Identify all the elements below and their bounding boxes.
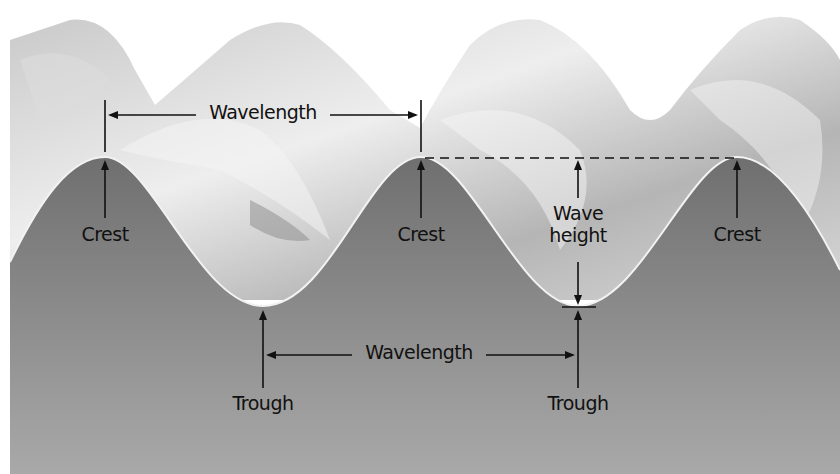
wave-height-label-line1: Wave — [549, 202, 607, 224]
crest-label-3: Crest — [713, 223, 760, 245]
wave-diagram: Wavelength Crest Crest Crest Wave height… — [0, 0, 840, 474]
crest-label-1: Crest — [81, 223, 128, 245]
trough-label-1: Trough — [233, 392, 294, 414]
wave-height-label: Wave height — [549, 202, 607, 246]
wavelength-label-bottom: Wavelength — [361, 341, 477, 363]
wave-height-label-line2: height — [549, 224, 607, 246]
trough-label-2: Trough — [548, 392, 609, 414]
crest-label-2: Crest — [397, 223, 444, 245]
water-cross-section — [10, 157, 840, 474]
wavelength-label-top: Wavelength — [205, 101, 321, 123]
